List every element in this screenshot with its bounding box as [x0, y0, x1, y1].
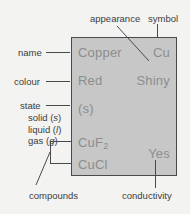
state-key-liquid: liquid (l)	[28, 124, 61, 136]
card-value-conductivity: Yes	[148, 147, 170, 160]
diagram-canvas: Copper Cu Red Shiny (s) CuF2 CuCl Yes na…	[0, 0, 190, 214]
card-value-compound-2: CuCl	[78, 158, 108, 171]
leader-line-state	[46, 105, 70, 106]
card-value-appearance: Shiny	[136, 74, 170, 87]
card-value-compound-1: CuF2	[78, 136, 108, 153]
leader-line-compound-1	[50, 141, 71, 142]
leader-line-symbol	[157, 24, 158, 37]
label-symbol: symbol	[148, 13, 178, 24]
label-appearance: appearance	[90, 13, 140, 24]
label-compounds: compounds	[29, 190, 78, 201]
leader-line-compounds-bracket	[50, 141, 51, 164]
compound-1-formula-subscript: 2	[103, 141, 108, 151]
leader-line-compounds-stem	[36, 152, 50, 185]
label-colour: colour	[14, 76, 40, 87]
state-key-solid-close: )	[58, 112, 61, 123]
element-data-card: Copper Cu Red Shiny (s) CuF2 CuCl Yes	[71, 37, 177, 176]
leader-line-compound-2	[50, 163, 71, 164]
card-value-symbol: Cu	[153, 46, 170, 59]
card-value-colour: Red	[78, 74, 102, 87]
label-name: name	[18, 47, 42, 58]
state-key-gas-text: gas (	[28, 135, 49, 146]
state-key-liquid-text: liquid (	[28, 124, 56, 135]
label-state: state	[20, 100, 41, 111]
label-conductivity: conductivity	[122, 190, 172, 201]
card-value-name: Copper	[78, 46, 122, 59]
state-key-solid: solid (s)	[28, 112, 61, 124]
compound-1-formula-base: CuF	[78, 135, 103, 150]
leader-line-conductivity	[155, 160, 156, 188]
leader-line-name	[46, 52, 70, 53]
card-value-state: (s)	[78, 102, 94, 115]
state-key-liquid-close: )	[58, 124, 61, 135]
leader-line-colour	[46, 81, 70, 82]
state-key-solid-text: solid (	[28, 112, 53, 123]
